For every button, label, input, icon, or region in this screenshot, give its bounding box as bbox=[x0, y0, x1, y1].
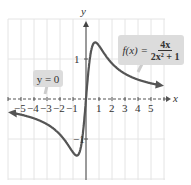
x-tick-label: −4 bbox=[27, 102, 39, 114]
x-tick-label: −3 bbox=[40, 102, 52, 114]
function-label-pointer bbox=[138, 64, 142, 72]
y-axis-arrow-icon bbox=[83, 21, 89, 27]
curve-right-arrow-icon bbox=[155, 80, 164, 88]
function-fraction: 4x 2x² + 1 bbox=[151, 39, 180, 62]
x-tick-label: 5 bbox=[148, 102, 154, 114]
function-label: f(x) = 4x 2x² + 1 bbox=[118, 35, 184, 65]
graph-canvas bbox=[0, 0, 191, 185]
x-axis-label: x bbox=[173, 92, 178, 104]
asymptote-label-pointer bbox=[45, 86, 47, 94]
x-axis-arrow-icon bbox=[166, 96, 171, 102]
x-tick-label: 3 bbox=[122, 102, 128, 114]
x-tick-label: 1 bbox=[96, 102, 102, 114]
function-denominator: 2x² + 1 bbox=[151, 51, 180, 62]
y-axis-label: y bbox=[81, 5, 86, 17]
asymptote-label: y = 0 bbox=[33, 70, 63, 87]
x-tick-label: −5 bbox=[14, 102, 26, 114]
function-lhs: f(x) = bbox=[122, 44, 147, 56]
x-tick-label: −2 bbox=[53, 102, 65, 114]
function-numerator: 4x bbox=[158, 39, 172, 51]
x-tick-label: 4 bbox=[135, 102, 141, 114]
y-tick-neg1: −1 bbox=[73, 133, 85, 145]
x-tick-label: −1 bbox=[66, 102, 78, 114]
y-tick-1: 1 bbox=[74, 53, 80, 65]
x-tick-label: 2 bbox=[109, 102, 115, 114]
